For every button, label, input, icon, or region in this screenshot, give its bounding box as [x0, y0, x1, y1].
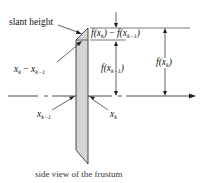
delta-x-label: xk − xk−1 [14, 65, 45, 75]
xk-leader [92, 99, 108, 110]
delta-f-label: f(xk) − f(xk−1) [91, 29, 140, 39]
slant-height-label: slant height [9, 18, 53, 28]
x-axis-arrowhead [189, 94, 196, 99]
fk1-up-arrowhead [114, 41, 118, 46]
caption: side view of the frustum [35, 170, 122, 179]
f-xk-minus-1-label: f(xk−1) [101, 64, 124, 74]
x-k-minus-1-label: xk−1 [37, 110, 51, 120]
x-k-label: xk [110, 110, 117, 120]
xk1-leader [52, 98, 72, 110]
fk-up-arrowhead [163, 28, 167, 33]
frustum-strip [76, 28, 88, 164]
f-xk-label: f(xk) [156, 58, 172, 68]
fk-down-arrowhead [163, 91, 167, 96]
fk1-down-arrowhead [114, 91, 118, 96]
